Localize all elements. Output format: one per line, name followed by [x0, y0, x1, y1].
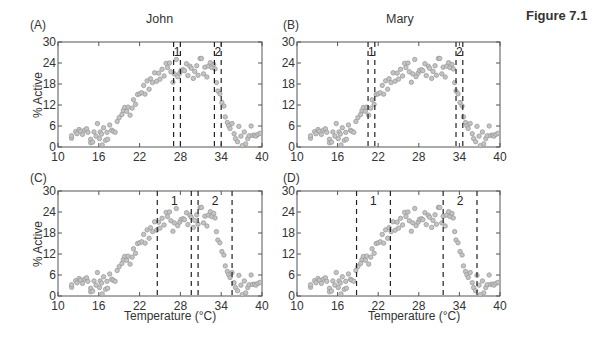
data-point [223, 264, 227, 268]
data-point [380, 232, 384, 236]
y-tick-label: 6 [288, 119, 295, 133]
data-point [346, 123, 350, 127]
data-point [90, 140, 94, 144]
data-point [340, 275, 344, 279]
data-point [223, 115, 227, 119]
data-point [205, 224, 209, 228]
data-point [92, 279, 96, 283]
data-point [451, 216, 455, 220]
data-point [147, 87, 151, 91]
y-tick-label: 0 [49, 289, 56, 303]
data-point [186, 222, 190, 226]
data-point [101, 275, 105, 279]
x-tick-label: 22 [133, 150, 147, 164]
data-point [406, 210, 410, 214]
data-point [496, 280, 500, 284]
data-point [413, 206, 417, 210]
data-point [468, 121, 472, 125]
data-point [431, 69, 435, 73]
x-tick-label: 28 [412, 299, 426, 313]
data-point [367, 262, 371, 266]
y-tick-label: 30 [43, 184, 57, 198]
data-point [167, 61, 171, 65]
data-point [369, 255, 373, 259]
data-point [158, 77, 162, 81]
interval-label: 1 [174, 45, 181, 59]
data-point [249, 124, 253, 128]
data-point [308, 134, 312, 138]
data-point [477, 134, 481, 138]
data-point [165, 214, 169, 218]
data-point [480, 130, 484, 134]
x-tick-label: 34 [215, 299, 229, 313]
data-point [156, 71, 160, 75]
x-tick-label: 40 [255, 150, 269, 164]
data-point [105, 137, 109, 141]
data-point [400, 223, 404, 227]
data-point [213, 216, 217, 220]
data-point [158, 226, 162, 230]
interval-label: 2 [457, 194, 464, 208]
data-point [235, 140, 239, 144]
data-point [338, 132, 342, 136]
data-point [92, 130, 96, 134]
x-tick-label: 34 [215, 150, 229, 164]
data-point [160, 216, 164, 220]
data-point [147, 236, 151, 240]
data-point [128, 113, 132, 117]
data-point [319, 132, 323, 136]
data-point [396, 226, 400, 230]
data-point [165, 65, 169, 69]
scatter-panel-d: 101622283440061218243012 [282, 184, 507, 313]
data-point [352, 279, 356, 283]
data-point [100, 292, 104, 296]
x-tick-label: 40 [493, 299, 507, 313]
data-point [340, 126, 344, 130]
y-tick-label: 24 [43, 205, 57, 219]
data-point [232, 132, 236, 136]
y-tick-label: 18 [282, 226, 296, 240]
data-point [218, 241, 222, 245]
interval-label: 2 [214, 45, 221, 59]
x-tick-label: 28 [174, 150, 188, 164]
data-point [249, 273, 253, 277]
data-point [396, 77, 400, 81]
data-point [433, 213, 437, 217]
interval-label: 2 [212, 194, 219, 208]
data-point [199, 56, 203, 60]
y-tick-label: 24 [43, 56, 57, 70]
x-tick-label: 40 [493, 150, 507, 164]
y-tick-label: 30 [282, 35, 296, 49]
y-tick-label: 12 [43, 247, 57, 261]
data-point [482, 291, 486, 295]
data-point [380, 83, 384, 87]
data-point [434, 222, 438, 226]
data-point [424, 73, 428, 77]
y-tick-label: 12 [43, 98, 57, 112]
data-point [339, 292, 343, 296]
data-point [404, 214, 408, 218]
data-point [86, 130, 90, 134]
data-point [143, 92, 147, 96]
interval-label: 1 [171, 194, 178, 208]
data-point [171, 229, 175, 233]
data-point [443, 75, 447, 79]
data-point [429, 76, 433, 80]
data-point [370, 247, 374, 251]
data-point [398, 67, 402, 71]
data-point [466, 275, 470, 279]
data-point [128, 262, 132, 266]
data-point [329, 289, 333, 293]
data-point [182, 69, 186, 73]
data-point [339, 143, 343, 147]
data-point [331, 279, 335, 283]
data-point [171, 80, 175, 84]
data-point [192, 69, 196, 73]
data-point [242, 279, 246, 283]
data-point [130, 255, 134, 259]
scatter-panel-b: 101622283440061218243012 [282, 35, 507, 164]
data-point [433, 64, 437, 68]
data-point [460, 104, 464, 108]
data-point [205, 75, 209, 79]
data-point [95, 270, 99, 274]
